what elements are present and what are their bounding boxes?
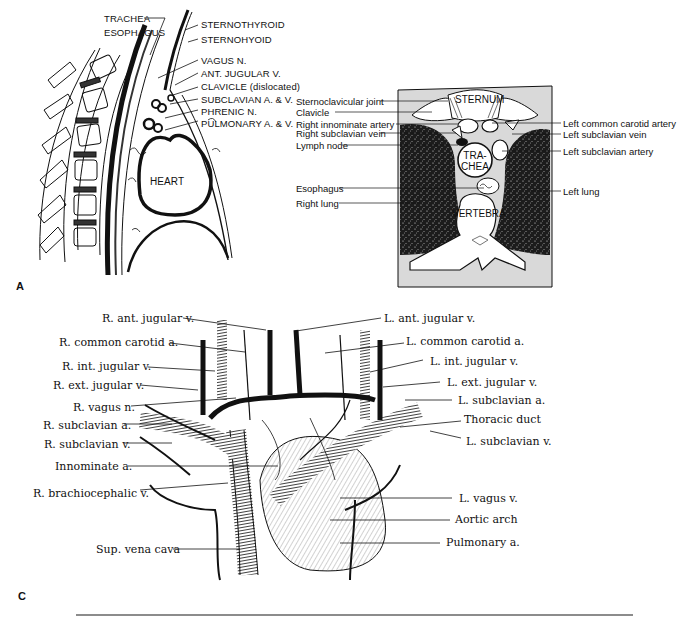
label-l-common-carotid-a: L. common carotid a. bbox=[406, 335, 524, 348]
label-subclavian-a-v: SUBCLAVIAN A. & V. bbox=[201, 94, 293, 105]
label-left-subclavian-vein: Left subclavian vein bbox=[563, 129, 646, 140]
label-trachea: TRACHEA bbox=[104, 13, 150, 24]
label-r-common-carotid-a: R. common carotid a. bbox=[59, 336, 178, 349]
label-r-ext-jugular-v: R. ext. jugular v. bbox=[53, 379, 144, 392]
label-r-int-jugular-v: R. int. jugular v. bbox=[62, 360, 151, 373]
label-trachea-line1: TRA- bbox=[460, 150, 490, 161]
figure-c-great-vessels-drawing bbox=[124, 318, 461, 580]
label-vertebra: VERTEBRA bbox=[452, 208, 502, 219]
label-right-lung: Right lung bbox=[296, 198, 339, 209]
label-esophagus: ESOPHAGUS bbox=[104, 27, 165, 38]
label-heart: HEART bbox=[150, 176, 184, 187]
label-l-subclavian-a: L. subclavian a. bbox=[458, 394, 545, 407]
label-aortic-arch: Aortic arch bbox=[455, 513, 517, 526]
label-sternohyoid: STERNOHYOID bbox=[201, 34, 272, 45]
label-sternothyroid: STERNOTHYROID bbox=[201, 19, 285, 30]
label-trachea-line2: CHEA bbox=[460, 161, 490, 172]
label-l-subclavian-v: L. subclavian v. bbox=[466, 435, 552, 448]
label-phrenic-n: PHRENIC N. bbox=[201, 106, 257, 117]
label-r-subclavian-v: R. subclavian v. bbox=[44, 438, 131, 451]
label-vagus-n: VAGUS N. bbox=[201, 55, 247, 66]
label-r-vagus-n: R. vagus n. bbox=[73, 401, 135, 414]
label-clavicle: Clavicle bbox=[296, 107, 329, 118]
label-esophagus-b: Esophagus bbox=[296, 183, 344, 194]
label-left-subclavian-artery: Left subclavian artery bbox=[563, 146, 653, 157]
label-left-lung: Left lung bbox=[563, 186, 599, 197]
label-right-subclavian-vein: Right subclavian vein bbox=[296, 128, 386, 139]
label-sup-vena-cava: Sup. vena cava bbox=[96, 543, 180, 556]
label-r-ant-jugular-v: R. ant. jugular v. bbox=[102, 312, 194, 325]
figure-a-sagittal-drawing bbox=[38, 10, 232, 275]
label-left-common-carotid-artery: Left common carotid artery bbox=[563, 118, 676, 129]
panel-label-a: A bbox=[16, 280, 24, 292]
label-pulmonary-a-v: PULMONARY A. & V. bbox=[201, 118, 293, 129]
label-l-ext-jugular-v: L. ext. jugular v. bbox=[447, 376, 537, 389]
label-lymph-node: Lymph node bbox=[296, 140, 348, 151]
panel-label-c: C bbox=[18, 590, 26, 602]
figure-b-cross-section-drawing bbox=[335, 86, 561, 287]
label-sternoclavicular-joint: Sternoclavicular joint bbox=[296, 96, 384, 107]
label-innominate-a: Innominate a. bbox=[55, 460, 132, 473]
label-ant-jugular-v: ANT. JUGULAR V. bbox=[201, 68, 281, 79]
label-sternum: STERNUM bbox=[455, 94, 499, 105]
label-l-vagus-v: L. vagus v. bbox=[459, 492, 518, 505]
label-l-ant-jugular-v: L. ant. jugular v. bbox=[384, 312, 475, 325]
label-r-subclavian-a: R. subclavian a. bbox=[43, 419, 131, 432]
label-clavicle-dislocated: CLAVICLE (dislocated) bbox=[201, 81, 300, 92]
label-thoracic-duct: Thoracic duct bbox=[464, 413, 541, 426]
label-r-brachiocephalic-v: R. brachiocephalic v. bbox=[33, 487, 149, 500]
label-pulmonary-a: Pulmonary a. bbox=[446, 536, 520, 549]
label-l-int-jugular-v: L. int. jugular v. bbox=[430, 355, 518, 368]
